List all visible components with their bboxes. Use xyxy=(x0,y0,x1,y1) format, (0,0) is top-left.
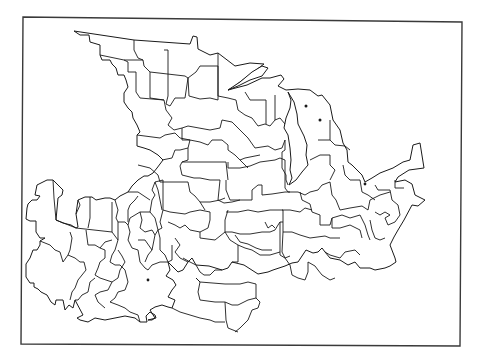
region-border xyxy=(172,308,225,322)
map-canvas xyxy=(0,0,482,364)
island-marker xyxy=(319,119,322,122)
region-border xyxy=(196,278,256,284)
region-border xyxy=(235,284,260,332)
region-border xyxy=(225,302,238,332)
region-border xyxy=(308,262,335,280)
island-marker xyxy=(305,105,308,108)
city-marker xyxy=(147,279,150,282)
city-marker xyxy=(364,183,367,186)
region-outer-boundary xyxy=(26,31,425,322)
